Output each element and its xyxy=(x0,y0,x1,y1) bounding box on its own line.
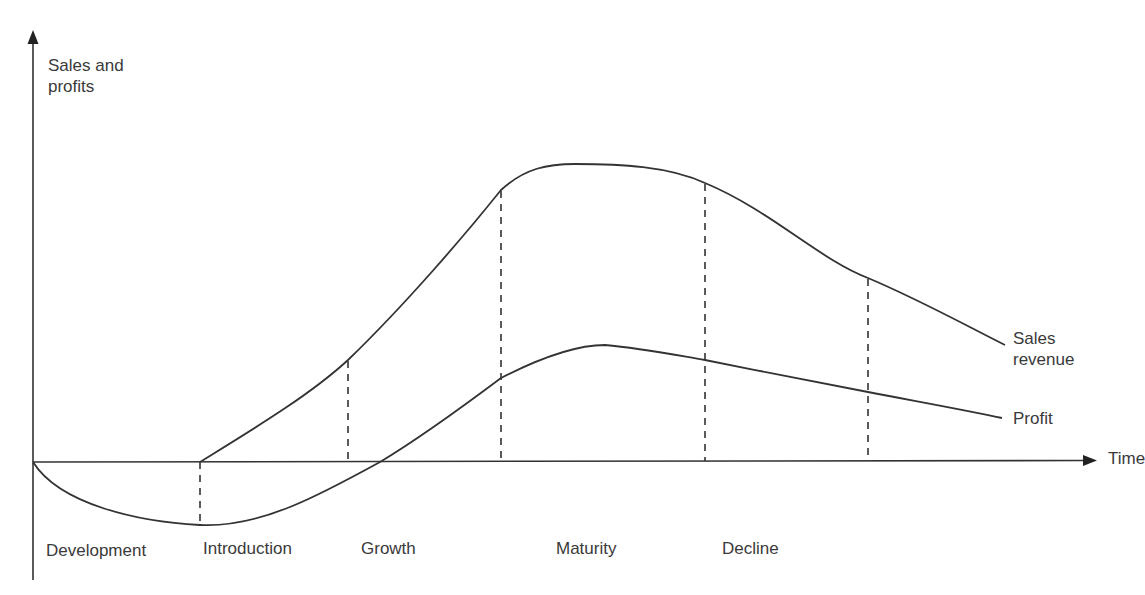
x-axis xyxy=(33,455,1097,466)
profit-curve xyxy=(33,345,1002,525)
y-axis xyxy=(28,30,39,580)
stage-label-maturity: Maturity xyxy=(556,538,616,559)
y-axis-label: Sales and profits xyxy=(48,55,124,97)
stage-label-introduction: Introduction xyxy=(203,538,292,559)
stage-label-decline: Decline xyxy=(722,538,779,559)
profit-label: Profit xyxy=(1013,408,1053,429)
stage-dividers xyxy=(200,184,868,526)
sales-revenue-label: Sales revenue xyxy=(1013,328,1074,370)
stage-label-development: Development xyxy=(46,540,146,561)
x-axis-arrow-icon xyxy=(1083,455,1097,466)
stage-label-growth: Growth xyxy=(361,538,416,559)
sales-revenue-curve xyxy=(200,164,1005,462)
y-axis-arrow-icon xyxy=(28,30,39,44)
x-axis-label: Time xyxy=(1108,448,1145,469)
